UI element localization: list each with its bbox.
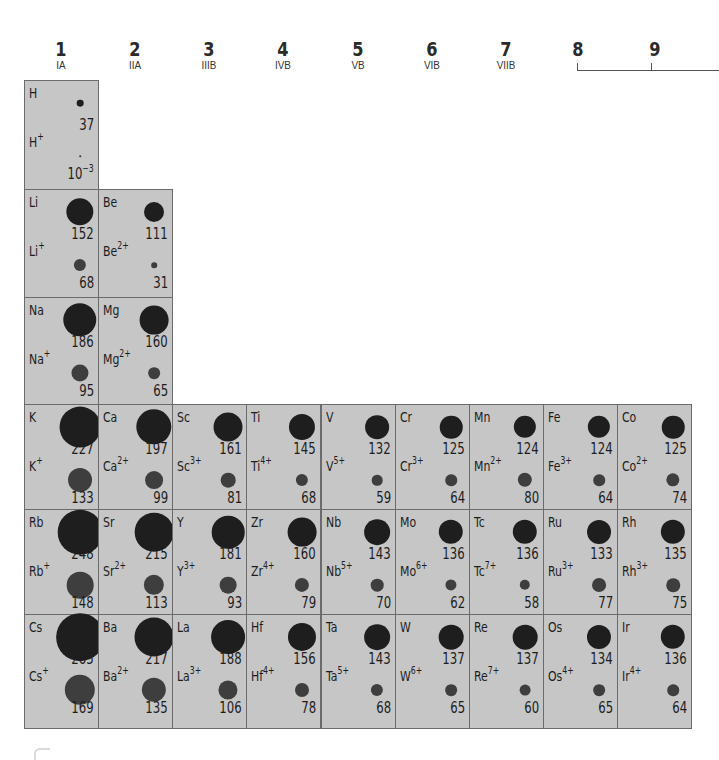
atom-size-circle: [588, 416, 610, 438]
ion-charge: +: [44, 560, 51, 571]
ion-symbol: Ta5+: [326, 669, 349, 683]
atomic-radius-value: 227: [72, 442, 94, 457]
group-number: 2: [104, 40, 167, 59]
element-symbol: Rb: [29, 515, 44, 529]
group-roman-label: IIA: [102, 59, 169, 71]
ion-base: Ru: [548, 563, 562, 579]
ionic-radius-value: 99: [153, 491, 168, 506]
element-symbol: Sr: [103, 515, 114, 529]
ion-symbol: Cr3+: [400, 459, 424, 473]
group-roman-label: IVB: [250, 59, 317, 71]
ionic-radius-value: 93: [227, 596, 242, 611]
ionic-radius-value: 60: [524, 701, 539, 716]
element-symbol: Sc: [177, 410, 190, 424]
atomic-radius-value: 134: [591, 652, 613, 667]
ion-base: Cr: [400, 458, 412, 474]
ion-charge: +: [36, 455, 43, 466]
ion-symbol: Ru3+: [548, 564, 574, 578]
ionic-radius-value: 80: [524, 491, 539, 506]
element-symbol: Mn: [474, 410, 490, 424]
atom-size-circle: [364, 519, 390, 545]
ionic-radius-value: 70: [376, 596, 391, 611]
ionic-radius-value: 133: [72, 491, 94, 506]
ion-base: Rb: [29, 563, 44, 579]
ion-charge: 3+: [190, 665, 202, 676]
ionic-radius-value: 59: [376, 491, 391, 506]
element-symbol: Mg: [103, 303, 119, 317]
element-symbol: Nb: [326, 515, 341, 529]
element-symbol: Y: [177, 515, 184, 529]
ion-size-circle: [71, 364, 88, 381]
element-symbol: Ti: [251, 410, 260, 424]
element-cell-ir: Ir136Ir4+64: [617, 614, 692, 729]
element-cell-mg: Mg160Mg2+65: [98, 297, 173, 405]
group-number: 8: [572, 40, 598, 59]
ion-base: La: [177, 668, 190, 684]
group-number: 9: [649, 40, 675, 59]
atom-size-circle: [365, 415, 389, 439]
ion-symbol: Y3+: [177, 564, 195, 578]
atomic-radius-value: 135: [665, 547, 687, 562]
element-symbol: Ru: [548, 515, 562, 529]
ion-size-circle: [520, 685, 531, 696]
ion-size-circle: [295, 683, 309, 697]
ion-size-circle: [518, 473, 532, 487]
ionic-radius-value: 78: [301, 701, 316, 716]
ion-charge: +: [38, 240, 45, 251]
element-cell-w: W137W6+65: [395, 614, 470, 729]
ion-symbol: Nb5+: [326, 564, 353, 578]
ion-symbol: Rh3+: [622, 564, 648, 578]
atomic-radius-value: 181: [220, 547, 242, 562]
element-symbol: Fe: [548, 410, 560, 424]
ionic-radius-value: 68: [79, 276, 94, 291]
group-roman-label: IA: [28, 59, 95, 71]
atomic-radius-value: 137: [443, 652, 465, 667]
ionic-radius-value: 68: [376, 701, 391, 716]
atom-size-circle: [288, 623, 316, 651]
element-cell-cs: Cs265Cs+169: [24, 614, 99, 729]
ion-size-circle: [520, 580, 530, 590]
group-header-4: 4IVB: [246, 40, 320, 71]
atomic-radius-value: 265: [72, 652, 94, 667]
ion-symbol: W6+: [400, 669, 422, 683]
ion-base: Fe: [548, 458, 560, 474]
ion-charge: 5+: [341, 560, 353, 571]
ion-charge: 4+: [260, 455, 272, 466]
ion-base: Co: [622, 458, 636, 474]
atomic-radius-value: 136: [517, 547, 539, 562]
ion-symbol: Be2+: [103, 244, 129, 258]
ion-charge: +: [44, 348, 51, 359]
ion-symbol: Na+: [29, 352, 50, 366]
element-cell-ba: Ba217Ba2+135: [98, 614, 173, 729]
ion-size-circle: [593, 684, 605, 696]
ion-base: Cs: [29, 668, 42, 684]
ion-symbol: Os4+: [548, 669, 574, 683]
atomic-radius-value: 186: [72, 335, 94, 350]
element-cell-mn: Mn124Mn2+80: [469, 404, 544, 510]
element-symbol: Os: [548, 620, 562, 634]
element-cell-hf: Hf156Hf4+78: [246, 614, 321, 729]
ion-size-circle: [667, 684, 679, 696]
element-symbol: Ir: [622, 620, 630, 634]
ion-base: Ti: [251, 458, 260, 474]
atomic-radius-value: 161: [220, 442, 242, 457]
ion-symbol: Mn2+: [474, 459, 502, 473]
element-symbol: Li: [29, 195, 38, 209]
ion-size-circle: [445, 684, 457, 696]
element-cell-ta: Ta143Ta5+68: [321, 614, 396, 729]
ion-symbol: Zr4+: [251, 564, 274, 578]
atomic-radius-value: 136: [665, 652, 687, 667]
ion-base: Be: [103, 243, 117, 259]
ion-charge: 3+: [190, 455, 202, 466]
ion-symbol: Mo6+: [400, 564, 428, 578]
group-number: 3: [178, 40, 241, 59]
ion-charge: 3+: [637, 560, 649, 571]
atomic-radius-value: 197: [146, 442, 168, 457]
element-cell-li: Li152Li+68: [24, 189, 99, 298]
element-cell-re: Re137Re7+60: [469, 614, 544, 729]
element-cell-v: V132V5+59: [321, 404, 396, 510]
group-number: 6: [401, 40, 464, 59]
ionic-radius-value: 81: [227, 491, 242, 506]
element-symbol: Ca: [103, 410, 117, 424]
ionic-radius-value: 64: [672, 701, 687, 716]
